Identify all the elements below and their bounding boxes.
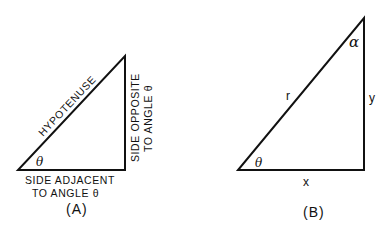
triangle-b <box>238 18 364 170</box>
hypotenuse-r-label: r <box>286 89 290 103</box>
panel-a: HYPOTENUSE θ SIDE OPPOSITE TO ANGLE θ SI… <box>18 56 154 217</box>
adjacent-side-label-line2: TO ANGLE θ <box>32 187 99 199</box>
adjacent-side-label-line1: SIDE ADJACENT <box>25 174 115 186</box>
opposite-side-label-line2: TO ANGLE θ <box>142 85 154 152</box>
angle-alpha-label: α <box>349 33 359 51</box>
opposite-side-label-line1: SIDE OPPOSITE <box>129 73 141 162</box>
caption-b: (B) <box>303 204 325 220</box>
horizontal-x-label: x <box>303 175 309 189</box>
triangle-a <box>18 56 125 170</box>
right-triangle-figure: HYPOTENUSE θ SIDE OPPOSITE TO ANGLE θ SI… <box>0 0 391 229</box>
angle-theta-label-a: θ <box>36 155 44 169</box>
angle-theta-label-b: θ <box>255 156 263 170</box>
caption-a: (A) <box>66 201 88 217</box>
hypotenuse-label: HYPOTENUSE <box>36 73 98 138</box>
vertical-y-label: y <box>369 91 375 105</box>
panel-b: r y x θ α (B) <box>238 18 375 220</box>
